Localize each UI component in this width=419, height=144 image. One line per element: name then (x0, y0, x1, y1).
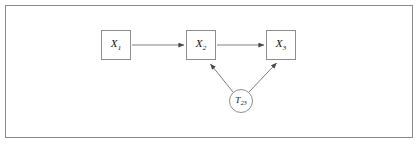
node-x1-label: X1 (111, 38, 122, 52)
figure-container: X1 X2 X3 T23 (0, 0, 419, 144)
node-x2[interactable]: X2 (186, 30, 216, 60)
edge-t23-to-x2 (211, 64, 234, 92)
node-t23-subscript: 23 (240, 100, 247, 106)
node-t23[interactable]: T23 (229, 89, 253, 113)
node-x2-label: X2 (196, 38, 207, 52)
node-x1[interactable]: X1 (101, 30, 131, 60)
node-x1-subscript: 1 (117, 44, 121, 52)
node-x3-subscript: 3 (282, 44, 286, 52)
node-x3[interactable]: X3 (266, 30, 296, 60)
node-x2-subscript: 2 (202, 44, 206, 52)
node-t23-label: T23 (235, 96, 247, 107)
node-x3-label: X3 (276, 38, 287, 52)
edge-t23-to-x3 (249, 63, 277, 92)
diagram-canvas (0, 0, 419, 144)
